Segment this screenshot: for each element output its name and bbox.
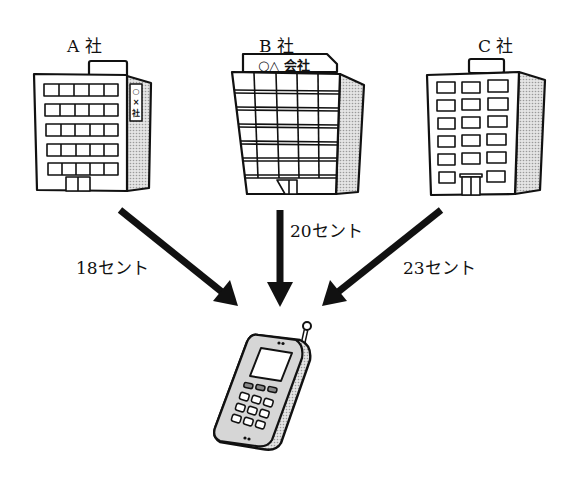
company-a-label: A 社 [67, 32, 102, 57]
company-a-sign: ○×社 [131, 86, 141, 119]
building-a-icon [34, 61, 151, 191]
mobile-phone-icon [214, 322, 311, 450]
company-b-sign: ○△ 会社 [258, 55, 310, 74]
building-b-icon [232, 54, 364, 194]
price-a-label: 18セント [76, 254, 149, 279]
building-c-icon [427, 59, 545, 195]
company-c-label: C 社 [478, 32, 513, 57]
diagram: A 社 B 社 C 社 ○×社 ○△ 会社 18セント 20セント 23セント [0, 0, 578, 481]
price-c-label: 23セント [403, 254, 476, 279]
company-b-label: B 社 [259, 32, 294, 57]
price-b-label: 20セント [290, 217, 363, 242]
